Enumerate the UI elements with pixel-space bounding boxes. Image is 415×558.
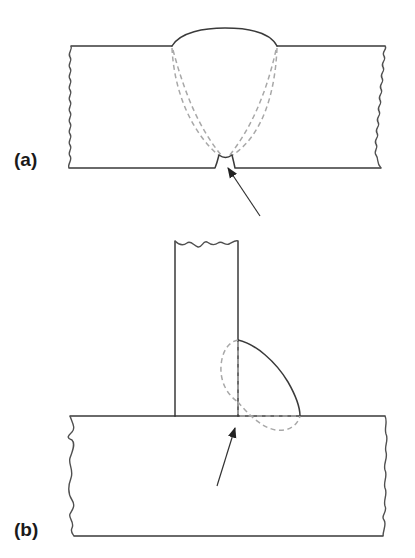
panel-a-butt-weld [69,28,386,216]
arrow-to-root-defect-b [217,428,235,486]
fusion-line-outer-right [233,48,277,155]
fusion-line-outer-left [172,48,218,155]
right-break-line-a [375,46,386,168]
stem-top-break-line [175,241,238,247]
panel-label-a: (a) [14,150,37,169]
arrow-to-root-defect [228,168,260,216]
left-break-line-a [69,46,72,168]
weld-diagram-canvas [0,0,415,558]
fillet-weld-face [238,340,300,416]
plate-bottom-right-edge [232,155,381,168]
panel-b-fillet-weld [68,241,387,536]
right-break-line-b [383,416,387,536]
fusion-line-inner-right [229,50,276,156]
panel-label-b: (b) [14,520,38,539]
weld-defect-figure: (a) (b) [0,0,415,558]
left-break-line-b [68,416,74,536]
fusion-line-inner-left [173,50,222,156]
root-underfill-arc [219,155,232,157]
weld-cap-reinforcement [172,28,277,46]
plate-bottom-left-edge [69,155,219,168]
fusion-boundary-stem-side [221,340,238,402]
